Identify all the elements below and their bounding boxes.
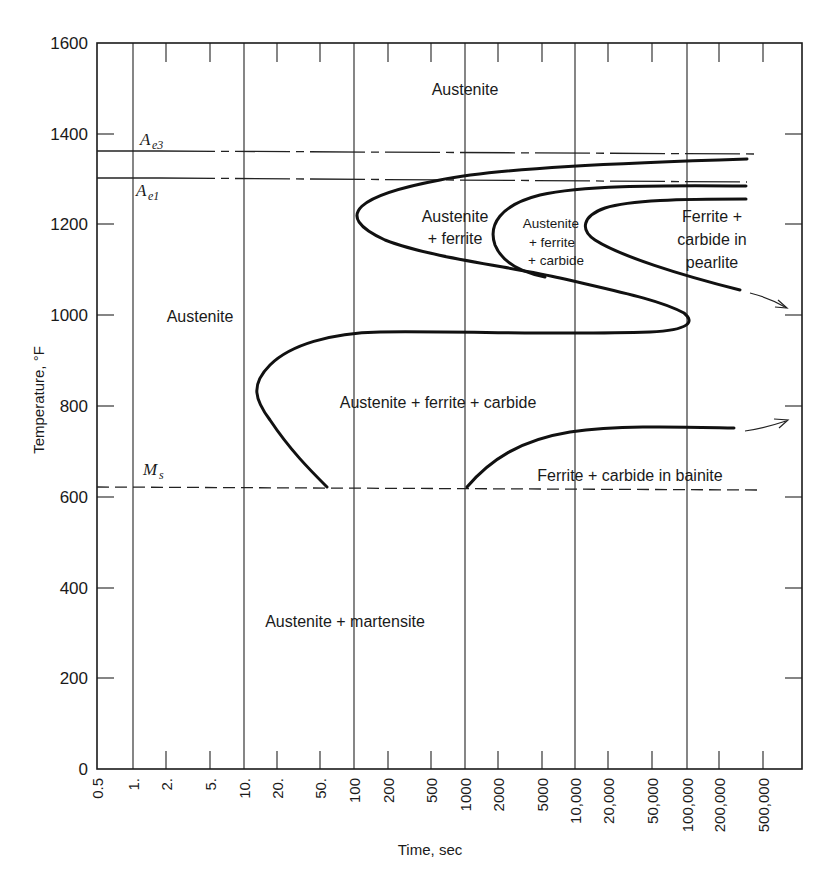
svg-text:10,000: 10,000 — [567, 778, 584, 824]
svg-text:5000: 5000 — [534, 778, 551, 811]
svg-text:1000: 1000 — [457, 778, 474, 811]
svg-text:+ carbide: + carbide — [528, 253, 584, 268]
svg-text:e3: e3 — [152, 138, 163, 152]
svg-text:800: 800 — [60, 397, 88, 416]
svg-text:20,000: 20,000 — [600, 778, 617, 824]
svg-text:1.: 1. — [125, 778, 142, 791]
svg-text:0.5: 0.5 — [89, 778, 106, 799]
svg-text:200: 200 — [60, 669, 88, 688]
pearlite-arrow — [750, 293, 787, 308]
x-axis-title: Time, sec — [398, 841, 463, 858]
svg-text:1000: 1000 — [50, 306, 88, 325]
svg-text:20.: 20. — [269, 778, 286, 799]
region-austenite-ferrite-carbide-small: Austenite + ferrite + carbide — [523, 216, 584, 268]
region-bainite: Ferrite + carbide in bainite — [537, 467, 723, 484]
svg-text:s: s — [159, 468, 164, 482]
svg-text:400: 400 — [60, 579, 88, 598]
svg-text:200: 200 — [380, 778, 397, 803]
svg-text:600: 600 — [60, 488, 88, 507]
ae3-line — [97, 151, 757, 154]
svg-text:1400: 1400 — [50, 125, 88, 144]
svg-text:Ferrite +: Ferrite + — [682, 208, 742, 225]
region-austenite-left: Austenite — [167, 308, 234, 325]
x-tick-labels: 0.5 1. 2. 5. 10. 20. 50. 100 200 500 100… — [89, 778, 772, 832]
ae1-label: A e1 — [135, 181, 159, 203]
region-martensite: Austenite + martensite — [265, 613, 425, 630]
svg-text:M: M — [142, 460, 158, 479]
y-tick-labels: 0 200 400 600 800 1000 1200 1400 1600 — [50, 34, 88, 779]
ae1-line — [97, 178, 747, 182]
y-axis-title: Temperature, °F — [30, 346, 47, 454]
svg-text:A: A — [135, 181, 147, 200]
svg-text:10.: 10. — [236, 778, 253, 799]
ttt-diagram: 0 200 400 600 800 1000 1200 1400 1600 0.… — [0, 0, 834, 886]
svg-text:0: 0 — [79, 760, 88, 779]
region-austenite-ferrite: Austenite + ferrite — [422, 208, 489, 247]
svg-text:50.: 50. — [312, 778, 329, 799]
svg-text:A: A — [139, 130, 151, 149]
svg-text:100,000: 100,000 — [679, 778, 696, 832]
svg-text:carbide in: carbide in — [677, 231, 746, 248]
svg-text:200,000: 200,000 — [711, 778, 728, 832]
svg-text:e1: e1 — [148, 189, 159, 203]
svg-text:50,000: 50,000 — [644, 778, 661, 824]
svg-text:1200: 1200 — [50, 215, 88, 234]
bainite-arrow — [745, 419, 788, 431]
svg-text:500,000: 500,000 — [755, 778, 772, 832]
ae3-label: A e3 — [139, 130, 163, 152]
region-austenite-ferrite-carbide: Austenite + ferrite + carbide — [340, 394, 537, 411]
ms-label: M s — [142, 460, 164, 482]
ms-line — [97, 487, 760, 490]
svg-text:2.: 2. — [158, 778, 175, 791]
svg-text:Austenite: Austenite — [422, 208, 489, 225]
svg-text:Austenite: Austenite — [523, 216, 579, 231]
region-pearlite: Ferrite + carbide in pearlite — [677, 208, 746, 271]
svg-text:2000: 2000 — [490, 778, 507, 811]
svg-text:+ ferrite: + ferrite — [428, 230, 483, 247]
svg-text:100: 100 — [346, 778, 363, 803]
ferrite-start-curve — [257, 159, 747, 487]
svg-text:pearlite: pearlite — [686, 254, 739, 271]
svg-text:1600: 1600 — [50, 34, 88, 53]
region-austenite-top: Austenite — [432, 81, 499, 98]
svg-text:500: 500 — [423, 778, 440, 803]
svg-text:5.: 5. — [202, 778, 219, 791]
svg-text:+ ferrite: + ferrite — [529, 235, 575, 250]
